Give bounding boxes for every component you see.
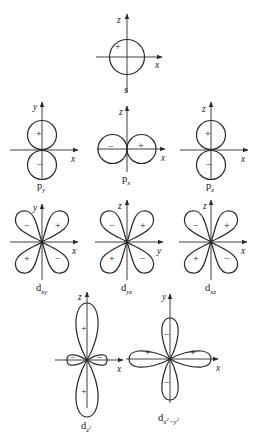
axis-label-y: y bbox=[157, 246, 161, 256]
sign-plus: + bbox=[138, 141, 144, 151]
dxy-orbital bbox=[10, 204, 78, 280]
axis-label-y: y bbox=[33, 203, 37, 213]
axis-label-x: x bbox=[155, 60, 159, 70]
orbital-label-s: s bbox=[124, 85, 128, 95]
orbital-label-dxy: dxy bbox=[36, 283, 47, 297]
dx2y2-orbital bbox=[126, 294, 218, 403]
orbital-label-dx2y2: dx2−y2 bbox=[158, 413, 179, 427]
sign-plus: + bbox=[190, 348, 196, 358]
sign-minus: − bbox=[140, 254, 146, 264]
axis-label-x: x bbox=[161, 153, 165, 163]
axis-label-y: y bbox=[33, 102, 37, 112]
px-orbital bbox=[97, 106, 165, 172]
orbital-label-dxz: dxz bbox=[205, 283, 216, 297]
orbital-label-dyz: dyz bbox=[121, 283, 132, 297]
sign-plus: + bbox=[140, 221, 146, 231]
axis-label-x: x bbox=[241, 246, 245, 256]
sign-plus: + bbox=[24, 254, 30, 264]
axis-label-z: z bbox=[118, 201, 122, 211]
sign-plus: + bbox=[115, 42, 121, 52]
sign-minus: − bbox=[70, 353, 76, 363]
axis-label-x: x bbox=[71, 154, 75, 164]
sign-minus: − bbox=[224, 254, 230, 264]
sign-plus: + bbox=[145, 348, 151, 358]
sign-plus: + bbox=[55, 221, 61, 231]
sign-plus: + bbox=[36, 129, 42, 139]
sign-minus: − bbox=[108, 142, 114, 152]
axis-label-z: z bbox=[119, 107, 123, 117]
sign-plus: + bbox=[193, 254, 199, 264]
sign-plus: + bbox=[109, 254, 115, 264]
axis-label-x: x bbox=[241, 154, 245, 164]
sign-minus: − bbox=[37, 160, 43, 170]
sign-plus: + bbox=[81, 387, 87, 397]
axis-label-z: z bbox=[78, 292, 82, 302]
sign-minus: − bbox=[97, 353, 103, 363]
py-orbital bbox=[10, 102, 78, 180]
sign-minus: − bbox=[109, 221, 115, 231]
dz2-orbital bbox=[55, 292, 123, 417]
sign-minus: − bbox=[24, 221, 30, 231]
axis-label-y: y bbox=[162, 292, 166, 302]
dxz-orbital bbox=[179, 200, 247, 280]
orbital-label-px: px bbox=[122, 174, 130, 188]
sign-plus: + bbox=[205, 129, 211, 139]
dyz-orbital bbox=[95, 200, 163, 280]
axis-label-z: z bbox=[202, 104, 206, 114]
axis-label-x: x bbox=[72, 246, 76, 256]
sign-minus: − bbox=[193, 221, 199, 231]
orbital-label-pz: pz bbox=[206, 181, 214, 195]
axis-label-z: z bbox=[203, 201, 207, 211]
sign-plus: + bbox=[81, 324, 87, 334]
axis-label-x: x bbox=[216, 363, 220, 373]
sign-minus: − bbox=[164, 378, 170, 388]
s-orbital bbox=[96, 14, 162, 92]
sign-minus: − bbox=[55, 254, 61, 264]
sign-minus: − bbox=[206, 160, 212, 170]
sign-minus: − bbox=[164, 330, 170, 340]
pz-orbital bbox=[180, 102, 248, 180]
axis-label-x: x bbox=[117, 364, 121, 374]
axis-label-z: z bbox=[117, 15, 121, 25]
orbital-label-py: py bbox=[37, 181, 45, 195]
sign-plus: + bbox=[224, 221, 230, 231]
orbital-label-dz2: dz2 bbox=[81, 421, 91, 435]
